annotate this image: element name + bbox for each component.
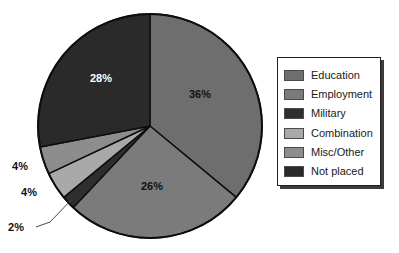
pie-slice-label: 4%	[21, 186, 37, 198]
legend-swatch-icon	[284, 147, 304, 158]
legend-item-label: Misc/Other	[311, 147, 364, 158]
legend-item-label: Military	[311, 108, 346, 119]
legend-item-label: Combination	[311, 128, 373, 139]
legend-item[interactable]: Not placed	[278, 162, 380, 181]
legend-item-label: Not placed	[311, 166, 364, 177]
pie-slice-label: 36%	[189, 88, 211, 100]
legend-item-label: Employment	[311, 89, 372, 100]
legend-item[interactable]: Employment	[278, 85, 380, 104]
legend-swatch-icon	[284, 70, 304, 81]
legend-item[interactable]: Misc/Other	[278, 143, 380, 162]
legend-item-label: Education	[311, 70, 360, 81]
chart-legend: EducationEmploymentMilitaryCombinationMi…	[277, 57, 381, 186]
leader-line-military	[36, 200, 71, 227]
legend-item[interactable]: Military	[278, 104, 380, 123]
legend-swatch-icon	[284, 128, 304, 139]
pie-slice-label: 26%	[141, 180, 163, 192]
pie-slices	[38, 14, 262, 238]
legend-list: EducationEmploymentMilitaryCombinationMi…	[278, 63, 380, 185]
legend-item[interactable]: Combination	[278, 124, 380, 143]
legend-swatch-icon	[284, 89, 304, 100]
pie-slice-label: 28%	[90, 72, 112, 84]
legend-swatch-icon	[284, 108, 304, 119]
legend-item[interactable]: Education	[278, 66, 380, 85]
chart-canvas: 36%26%2%4%4%28% EducationEmploymentMilit…	[0, 0, 399, 253]
pie-slice-label: 4%	[12, 160, 28, 172]
leader-lines	[36, 200, 71, 227]
legend-swatch-icon	[284, 166, 304, 177]
pie-slice-label: 2%	[8, 221, 24, 233]
